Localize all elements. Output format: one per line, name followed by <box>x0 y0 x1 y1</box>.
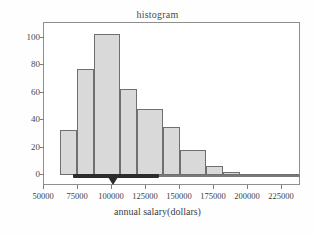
histogram-bar <box>120 89 137 175</box>
y-tick-mark-20 <box>40 147 44 148</box>
x-tick-label-175000: 175000 <box>200 191 226 201</box>
y-tick-mark-80 <box>40 64 44 65</box>
y-tick-label-60: 60 <box>31 87 40 97</box>
balance-beam-tail <box>159 175 300 177</box>
y-tick-label-80: 80 <box>31 59 40 69</box>
x-tick-label-200000: 200000 <box>234 191 260 201</box>
histogram-bar <box>60 130 77 175</box>
chart-title: histogram <box>0 9 315 20</box>
x-tick-label-225000: 225000 <box>268 191 294 201</box>
histogram-bar <box>94 34 120 175</box>
y-tick-label-40: 40 <box>31 114 40 124</box>
y-tick-label-100: 100 <box>27 32 41 42</box>
x-tick-mark-225000 <box>281 185 282 189</box>
x-tick-mark-50000 <box>43 185 44 189</box>
histogram-bar <box>206 166 223 175</box>
x-tick-mark-100000 <box>111 185 112 189</box>
x-tick-mark-200000 <box>247 185 248 189</box>
y-tick-mark-100 <box>40 37 44 38</box>
x-tick-label-75000: 75000 <box>66 191 87 201</box>
y-tick-mark-0 <box>40 174 44 175</box>
x-tick-label-150000: 150000 <box>166 191 192 201</box>
x-tick-mark-150000 <box>179 185 180 189</box>
y-tick-mark-60 <box>40 92 44 93</box>
histogram-bar <box>137 109 163 175</box>
y-tick-mark-40 <box>40 119 44 120</box>
x-tick-mark-125000 <box>145 185 146 189</box>
histogram-bar <box>163 127 180 175</box>
y-tick-label-20: 20 <box>31 142 40 152</box>
fulcrum-marker <box>108 177 118 185</box>
x-tick-label-50000: 50000 <box>32 191 53 201</box>
x-tick-label-100000: 100000 <box>98 191 124 201</box>
x-tick-label-125000: 125000 <box>132 191 158 201</box>
histogram-figure: histogram 0 20 40 60 80 100 50000 75000 … <box>0 0 315 236</box>
x-tick-mark-175000 <box>213 185 214 189</box>
histogram-bar <box>180 150 206 175</box>
x-tick-mark-75000 <box>77 185 78 189</box>
histogram-bar <box>77 69 94 176</box>
x-axis-title: annual salary(dollars) <box>0 206 315 217</box>
